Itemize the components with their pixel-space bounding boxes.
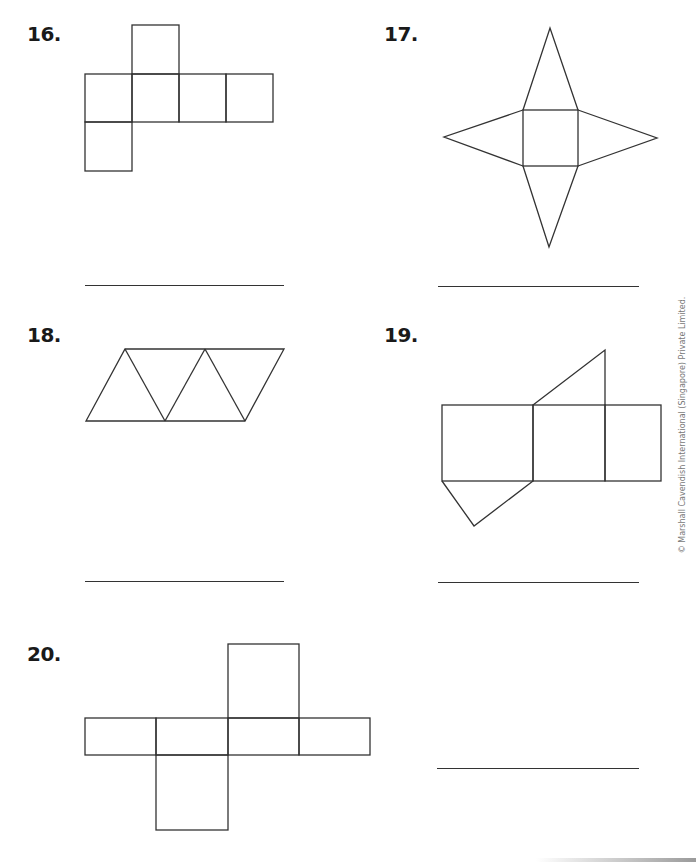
cube-net-figure xyxy=(85,25,273,171)
answer-line-18[interactable] xyxy=(85,581,284,582)
copyright-notice: © Marshall Cavendish International (Sing… xyxy=(678,297,687,554)
triangle-strip-net-figure xyxy=(86,349,284,421)
square-pyramid-net-figure xyxy=(444,28,657,247)
triangular-prism-net-figure xyxy=(442,350,661,526)
figures-canvas xyxy=(0,0,696,862)
answer-line-19[interactable] xyxy=(438,582,639,583)
answer-line-16[interactable] xyxy=(85,285,284,286)
answer-line-20[interactable] xyxy=(437,768,639,769)
page-edge-shadow xyxy=(536,858,696,862)
answer-line-17[interactable] xyxy=(438,286,639,287)
rectangular-prism-net-figure xyxy=(85,644,370,830)
